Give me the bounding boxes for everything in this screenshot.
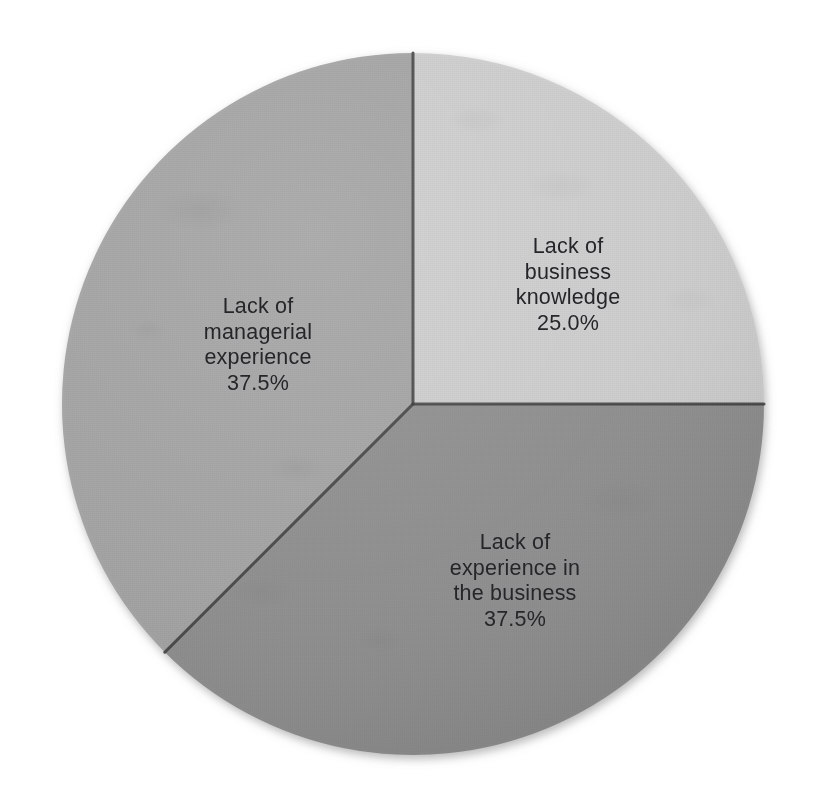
pie-sheen-overlay bbox=[62, 53, 764, 755]
pie-chart-graphic bbox=[0, 0, 818, 800]
pie-chart: Lack of business knowledge 25.0% Lack of… bbox=[0, 0, 818, 800]
